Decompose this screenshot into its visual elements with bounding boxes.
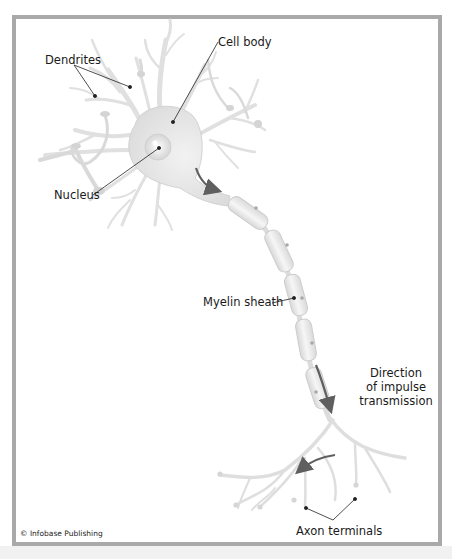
label-nucleus: Nucleus	[54, 188, 100, 202]
label-direction-line2: of impulse	[356, 380, 436, 394]
label-myelin-sheath: Myelin sheath	[203, 295, 283, 309]
label-direction-of-impulse: Direction of impulse transmission	[356, 366, 436, 408]
label-direction-line1: Direction	[356, 366, 436, 380]
label-direction-line3: transmission	[356, 394, 436, 408]
copyright-credit: © Infobase Publishing	[20, 529, 103, 538]
neuron-illustration	[0, 0, 452, 559]
label-dendrites: Dendrites	[45, 53, 101, 67]
axon-terminal-branches	[217, 418, 405, 510]
leader-lines	[74, 42, 357, 520]
direction-arrows	[196, 168, 335, 470]
label-cell-body: Cell body	[218, 35, 272, 49]
cell-body-shape	[129, 106, 230, 206]
label-axon-terminals: Axon terminals	[296, 524, 382, 538]
